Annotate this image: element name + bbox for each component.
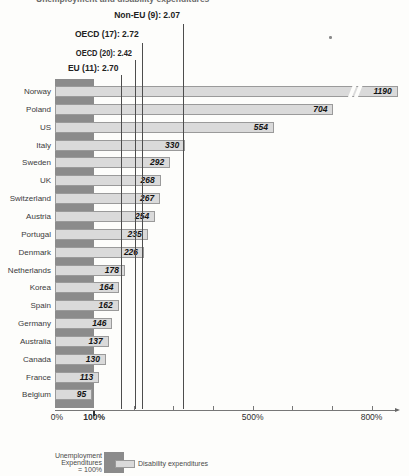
disability-bar: 235 — [55, 229, 148, 240]
reference-line — [142, 43, 143, 409]
disability-bar: 164 — [55, 282, 120, 293]
country-label: Poland — [0, 104, 51, 115]
country-label: Belgium — [0, 389, 51, 400]
legend-disability-swatch — [115, 460, 135, 468]
disability-bar: 95 — [55, 389, 93, 400]
axis-tick-label: 100% — [72, 413, 116, 422]
unemployment-bar-footer — [55, 400, 95, 408]
reference-line-label: EU (11): 2.70 — [0, 64, 118, 73]
legend-unemployment-label: Unemployment Expenditures = 100% — [31, 452, 102, 473]
disability-bar: 254 — [55, 211, 156, 222]
reference-line — [135, 60, 136, 409]
x-axis-line — [55, 410, 397, 411]
bar-value-label: 330 — [165, 141, 179, 150]
legend-unemployment-line1: Unemployment — [31, 452, 102, 459]
country-label: Switzerland — [0, 193, 51, 204]
clipped-title-text: Unemployment and disability expenditures — [36, 0, 246, 4]
legend-disability-label: Disability expenditures — [138, 460, 208, 467]
bar-value-label: 164 — [99, 283, 113, 292]
country-label: Korea — [0, 282, 51, 293]
disability-expenditure-chart: Unemployment and disability expenditures… — [0, 0, 409, 476]
country-label: Portugal — [0, 229, 51, 240]
bar-value-label: 137 — [89, 337, 103, 346]
country-label: Italy — [0, 140, 51, 151]
axis-tick-label: 800% — [350, 413, 394, 422]
bar-value-label: 1190 — [373, 87, 391, 96]
bar-value-label: 146 — [92, 319, 106, 328]
country-label: Canada — [0, 354, 51, 365]
bar-value-label: 113 — [80, 373, 94, 382]
disability-bar: 292 — [55, 157, 171, 168]
bar-value-label: 292 — [150, 158, 164, 167]
country-label: Spain — [0, 300, 51, 311]
clipped-title: Unemployment and disability expenditures — [36, 0, 246, 4]
country-label: Austria — [0, 211, 51, 222]
reference-line-label: OECD (17): 2.72 — [9, 30, 139, 39]
bar-value-label: 704 — [313, 105, 327, 114]
bar-value-label: 178 — [105, 266, 119, 275]
bar-value-label: 130 — [86, 355, 100, 364]
disability-bar: 137 — [55, 336, 109, 347]
country-label: Germany — [0, 318, 51, 329]
country-label: Denmark — [0, 247, 51, 258]
disability-bar: 130 — [55, 354, 107, 365]
country-label: US — [0, 122, 51, 133]
axis-tick-label: 500% — [231, 413, 275, 422]
reference-line-label: Non-EU (9): 2.07 — [50, 11, 180, 20]
bar-value-label: 554 — [254, 123, 268, 132]
country-label: Norway — [0, 86, 51, 97]
legend-unemployment-line2: Expenditures — [31, 459, 102, 466]
disability-bar: 113 — [55, 372, 100, 383]
reference-line — [183, 24, 184, 409]
reference-line-label: OECD (20): 2.42 — [18, 49, 132, 58]
disability-bar: 268 — [55, 175, 161, 186]
disability-bar: 330 — [55, 140, 186, 151]
bar-value-label: 95 — [77, 390, 86, 399]
disability-bar: 178 — [55, 265, 126, 276]
disability-bar: 267 — [55, 193, 161, 204]
country-label: UK — [0, 175, 51, 186]
disability-bar: 226 — [55, 247, 145, 258]
disability-bar: 1190 — [55, 86, 398, 97]
disability-bar: 554 — [55, 122, 275, 133]
country-label: Sweden — [0, 157, 51, 168]
country-label: Netherlands — [0, 265, 51, 276]
legend-unemployment-line3: = 100% — [31, 466, 102, 473]
country-label: Australia — [0, 336, 51, 347]
reference-line — [121, 75, 122, 409]
disability-bar: 704 — [55, 104, 334, 115]
disability-bar: 146 — [55, 318, 113, 329]
disability-bar: 162 — [55, 300, 119, 311]
x-axis-arrow-icon — [395, 408, 400, 412]
bar-value-label: 162 — [99, 301, 113, 310]
stray-mark — [329, 36, 332, 39]
country-label: France — [0, 372, 51, 383]
